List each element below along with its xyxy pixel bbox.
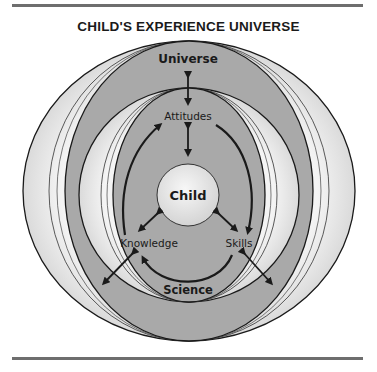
- label-attitudes: Attitudes: [164, 110, 212, 122]
- bottom-rule: [12, 357, 363, 360]
- label-child: Child: [169, 188, 206, 203]
- label-skills: Skills: [226, 237, 253, 249]
- label-universe: Universe: [158, 52, 218, 66]
- label-knowledge: Knowledge: [120, 237, 178, 249]
- label-science: Science: [163, 283, 213, 297]
- experience-universe-diagram: Universe Attitudes Child Knowledge Skill…: [0, 0, 377, 372]
